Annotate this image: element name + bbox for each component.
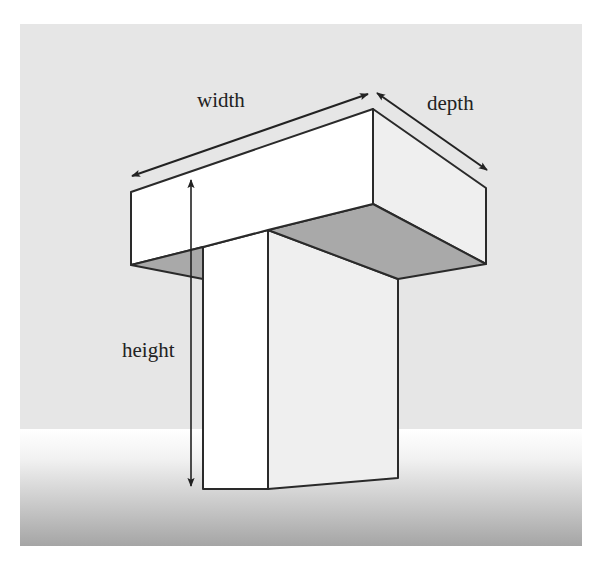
width-label: width <box>197 88 245 112</box>
stem-front-face <box>203 230 268 489</box>
t-block-diagram: width depth height <box>0 0 599 562</box>
depth-label: depth <box>427 91 474 115</box>
height-label: height <box>122 338 175 362</box>
